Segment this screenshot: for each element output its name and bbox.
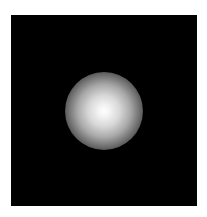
image-canvas <box>0 0 207 217</box>
radial-glow <box>65 72 143 150</box>
black-field <box>11 15 197 206</box>
caption <box>0 208 207 217</box>
